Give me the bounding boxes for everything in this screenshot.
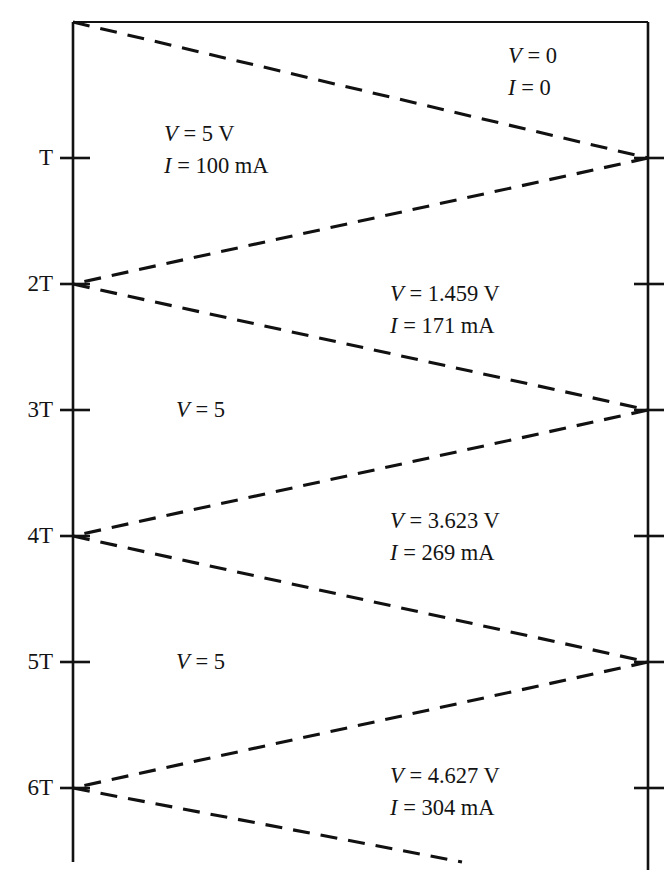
region-4-voltage: V = 3.623 V (390, 505, 500, 537)
region-annotation-6: V = 4.627 V I = 304 mA (390, 760, 500, 824)
wave-incident-0-T (73, 22, 648, 158)
region-annotation-3: V = 5 (176, 394, 225, 426)
region-0-current: I = 0 (508, 72, 557, 104)
region-annotation-1: V = 5 V I = 100 mA (164, 118, 269, 182)
region-4-current: I = 269 mA (390, 537, 500, 569)
region-1-current: I = 100 mA (164, 150, 269, 182)
tick-label-T: T (8, 145, 53, 171)
wave-reflected-5T-6T (73, 662, 648, 788)
wave-trajectory-group (73, 22, 648, 862)
tick-label-4T: 4T (8, 523, 53, 549)
wave-reflected-T-2T (73, 158, 648, 284)
tick-label-2T: 2T (8, 271, 53, 297)
lattice-svg (0, 0, 670, 883)
wave-incident-2T-3T (73, 284, 648, 410)
region-6-voltage: V = 4.627 V (390, 760, 500, 792)
region-annotation-5: V = 5 (176, 646, 225, 678)
tick-label-3T: 3T (8, 397, 53, 423)
region-annotation-2: V = 1.459 V I = 171 mA (390, 278, 500, 342)
bounce-diagram: T 2T 3T 4T 5T 6T V = 0 I = 0 V = 5 V I =… (0, 0, 670, 883)
left-tick-group (60, 158, 90, 788)
region-annotation-0: V = 0 I = 0 (508, 40, 557, 104)
region-3-voltage: V = 5 (176, 394, 225, 426)
tick-label-6T: 6T (8, 775, 53, 801)
region-2-current: I = 171 mA (390, 310, 500, 342)
wave-incident-4T-5T (73, 536, 648, 662)
region-annotation-4: V = 3.623 V I = 269 mA (390, 505, 500, 569)
region-6-current: I = 304 mA (390, 792, 500, 824)
region-5-voltage: V = 5 (176, 646, 225, 678)
region-2-voltage: V = 1.459 V (390, 278, 500, 310)
region-0-voltage: V = 0 (508, 40, 557, 72)
wave-reflected-3T-4T (73, 410, 648, 536)
region-1-voltage: V = 5 V (164, 118, 269, 150)
tick-label-5T: 5T (8, 649, 53, 675)
